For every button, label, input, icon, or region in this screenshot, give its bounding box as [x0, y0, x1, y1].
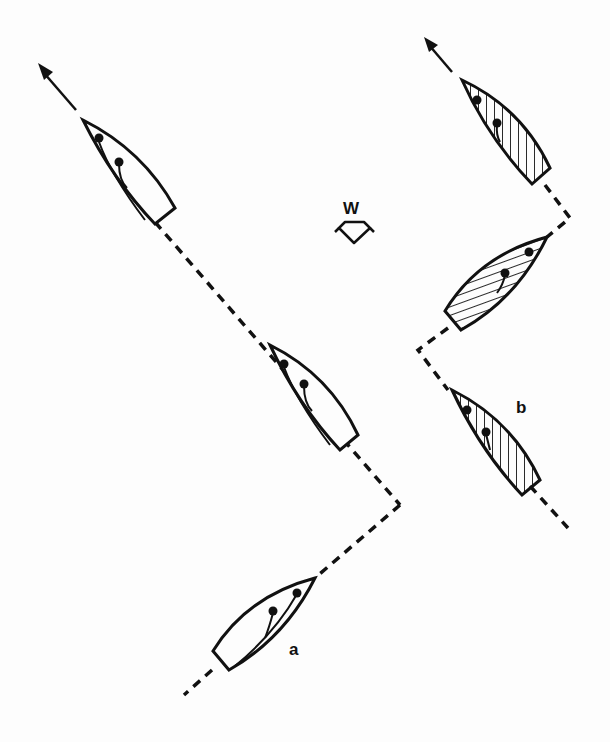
- boat-b-label: b: [516, 398, 526, 418]
- boat-a-position-3: [213, 578, 315, 670]
- boat-b-position-2: [445, 237, 547, 330]
- boat-a-position-1: [83, 120, 175, 224]
- diagram-svg: [0, 0, 610, 742]
- boat-b-position-3: [452, 390, 540, 495]
- boat-b-heading-arrow-icon: [424, 37, 452, 72]
- boat-a-label: a: [289, 640, 298, 660]
- sailing-diagram: W a b: [0, 0, 610, 742]
- boat-a-position-2: [270, 345, 358, 450]
- wind-label: W: [343, 199, 359, 219]
- wind-direction-arrow-icon: [335, 222, 374, 243]
- boat-b-position-1: [462, 80, 550, 184]
- boat-a-heading-arrow-icon: [38, 63, 76, 110]
